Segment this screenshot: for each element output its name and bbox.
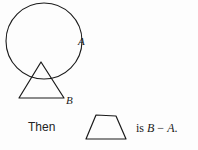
trapezoid-result-shape — [86, 115, 126, 139]
result-period: . — [174, 121, 177, 135]
then-word-label: Then — [28, 121, 55, 133]
triangle-b-shape — [19, 62, 64, 98]
figure-container: A B Then is B − A. — [0, 0, 198, 150]
triangle-b-label: B — [66, 95, 73, 106]
result-expression: is B − A. — [136, 122, 177, 134]
result-prefix-word: is — [136, 121, 144, 135]
circle-a-label: A — [78, 36, 85, 47]
